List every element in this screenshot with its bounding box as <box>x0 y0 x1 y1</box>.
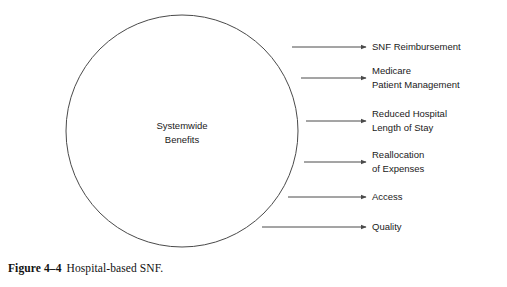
diagram-canvas: Systemwide Benefits SNF Reimbursement Me… <box>0 0 507 287</box>
branch-label-medicare-patient-management-line1: Medicare <box>372 65 411 76</box>
figure-caption-title: Hospital-based SNF. <box>67 262 164 274</box>
branch-label-quality: Quality <box>372 221 402 232</box>
branch-label-reduced-hospital-length-of-stay-line1: Reduced Hospital <box>372 108 447 119</box>
central-node-label-line2: Benefits <box>165 134 200 145</box>
branch-label-reallocation-of-expenses-line2: of Expenses <box>372 163 425 174</box>
figure-caption-number: Figure 4–4 <box>8 262 62 274</box>
branch-label-reduced-hospital-length-of-stay-line2: Length of Stay <box>372 122 434 133</box>
figure-caption: Figure 4–4Hospital-based SNF. <box>8 262 163 274</box>
branch-label-access: Access <box>372 191 403 202</box>
central-node-label-line1: Systemwide <box>156 120 207 131</box>
branch-label-reallocation-of-expenses-line1: Reallocation <box>372 149 424 160</box>
branch-label-snf-reimbursement: SNF Reimbursement <box>372 41 461 52</box>
branch-label-medicare-patient-management-line2: Patient Management <box>372 79 460 90</box>
figure-container: Systemwide Benefits SNF Reimbursement Me… <box>0 0 507 287</box>
systemwide-benefits-circle <box>66 15 298 247</box>
